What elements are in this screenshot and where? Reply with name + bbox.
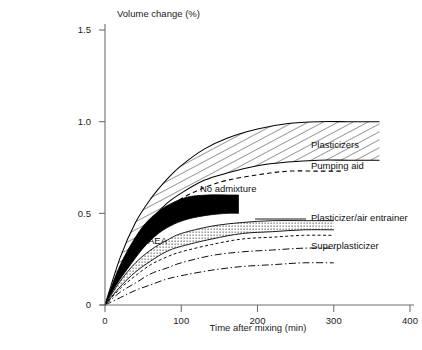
y-axis-title: Volume change (%) (117, 8, 200, 19)
x-tick-label: 0 (102, 315, 107, 326)
x-tick-label: 300 (326, 315, 342, 326)
series-label-pumping-aid: Pumping aid (311, 160, 364, 171)
series-label-plasticizers: Plasticizers (311, 139, 359, 150)
x-tick-label: 400 (402, 315, 418, 326)
volume-change-chart: 1.51.00.500100200300400 Volume change (%… (0, 0, 422, 350)
series-label-aea: AEA (148, 235, 168, 246)
series-label-plasticizer-air-entrainer: Plasticizer/air entrainer (311, 212, 408, 223)
series-label-no-admixture: No admixture (200, 183, 257, 194)
y-tick-label: 1.5 (78, 24, 91, 35)
x-axis-title: Time after mixing (min) (210, 322, 307, 333)
y-tick-label: 0 (86, 299, 91, 310)
chart-container: 1.51.00.500100200300400 Volume change (%… (0, 0, 422, 350)
x-tick-label: 100 (173, 315, 189, 326)
y-tick-label: 0.5 (78, 208, 91, 219)
y-tick-label: 1.0 (78, 116, 91, 127)
series-label-superplasticizer: Superplasticizer (311, 240, 379, 251)
